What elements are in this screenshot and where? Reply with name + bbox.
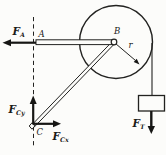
beam-ab (36, 40, 114, 45)
force-fcx-arrowhead-icon (53, 120, 61, 127)
point-c-label: C (37, 127, 44, 137)
force-fcy-arrowhead-icon (30, 96, 37, 105)
radius-label: r (129, 40, 134, 50)
mechanics-free-body-diagram: FA A B r C FCy FCx FT (0, 0, 166, 155)
diagram-canvas: FA A B r C FCy FCx FT (0, 0, 166, 155)
force-fcy-label: FCy (8, 103, 26, 117)
weight-block (139, 96, 165, 112)
pin-b (111, 39, 117, 45)
force-fcx-subscript: Cx (60, 136, 69, 143)
force-ft-subscript: T (140, 123, 146, 130)
point-a-label: A (38, 29, 45, 39)
point-b-label: B (113, 26, 120, 36)
force-fa-arrowhead-icon (3, 39, 12, 46)
force-ft-arrowhead-icon (148, 126, 155, 134)
force-fa-subscript: A (19, 31, 25, 38)
force-fcy-subscript: Cy (16, 109, 26, 117)
strut-cb (32, 41, 115, 127)
force-fcx-label: FCx (52, 130, 69, 143)
force-ft-label: FT (132, 117, 146, 130)
force-fa-label: FA (12, 25, 25, 38)
